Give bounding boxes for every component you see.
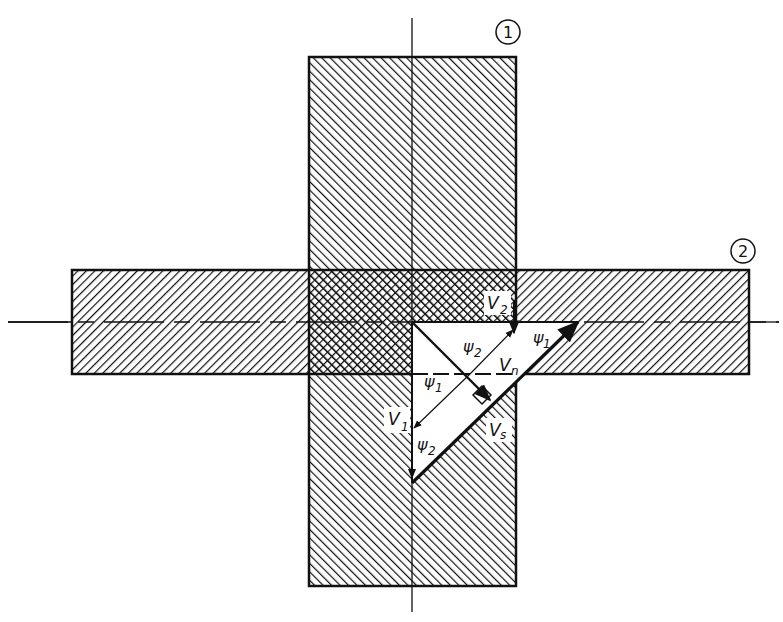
svg-text:2: 2 (428, 444, 436, 458)
svg-text:s: s (500, 428, 506, 442)
svg-text:n: n (511, 364, 519, 378)
svg-text:2: 2 (738, 242, 748, 261)
svg-text:ψ: ψ (417, 435, 428, 454)
svg-text:ψ: ψ (463, 337, 474, 356)
svg-text:V: V (388, 409, 401, 429)
svg-text:1: 1 (435, 381, 443, 395)
member-2-marker: 2 (731, 239, 755, 263)
svg-text:2: 2 (474, 346, 482, 360)
diagram-canvas: 1 2 V 2 V 1 V n V s ψ 1 ψ 2 ψ 1 ψ 2 (0, 0, 783, 622)
svg-text:1: 1 (401, 420, 409, 434)
svg-text:V: V (487, 293, 500, 313)
member-1-marker: 1 (496, 20, 520, 44)
svg-text:2: 2 (500, 303, 508, 317)
svg-text:ψ: ψ (424, 372, 435, 391)
svg-text:1: 1 (543, 337, 551, 351)
svg-text:1: 1 (503, 23, 513, 42)
